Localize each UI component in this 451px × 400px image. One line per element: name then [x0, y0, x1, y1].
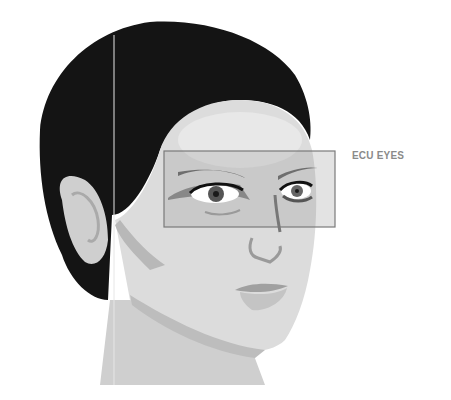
left-pupil [213, 191, 219, 197]
ecu-eyes-diagram: ECU EYES [0, 0, 451, 400]
right-pupil [295, 189, 299, 193]
frame-label: ECU EYES [352, 150, 404, 161]
head-illustration [0, 0, 451, 400]
